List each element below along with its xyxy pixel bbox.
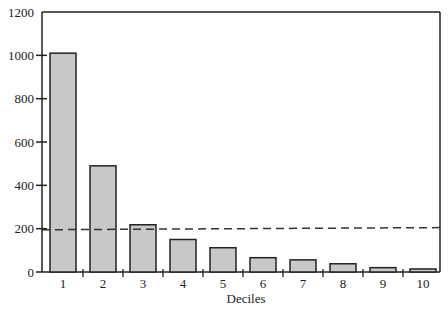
x-tick-label: 9 [380, 276, 387, 291]
y-tick-label: 600 [15, 135, 35, 150]
x-tick-label: 1 [60, 276, 67, 291]
bars [50, 53, 436, 272]
x-tick-label: 3 [140, 276, 147, 291]
bar-decile-5 [210, 248, 236, 272]
x-axis-label: Deciles [227, 291, 266, 306]
x-tick-label: 5 [220, 276, 227, 291]
y-tick-label: 1000 [8, 48, 34, 63]
x-tick-label: 8 [340, 276, 347, 291]
x-tick-label: 2 [100, 276, 107, 291]
y-tick-label: 800 [15, 91, 35, 106]
bar-decile-1 [50, 53, 76, 272]
y-tick-label: 200 [15, 221, 35, 236]
y-axis: 020040060080010001200 [8, 5, 47, 280]
x-tick-label: 4 [180, 276, 187, 291]
y-tick-label: 400 [15, 178, 35, 193]
bar-chart: 020040060080010001200 12345678910 Decile… [0, 0, 448, 314]
bar-decile-4 [170, 240, 196, 273]
bar-decile-3 [130, 225, 156, 272]
bar-decile-8 [330, 264, 356, 272]
x-tick-label: 6 [260, 276, 267, 291]
x-tick-label: 7 [300, 276, 307, 291]
bar-decile-7 [290, 260, 316, 272]
x-tick-label: 10 [417, 276, 430, 291]
bar-decile-10 [410, 269, 436, 272]
bar-decile-6 [250, 258, 276, 272]
bar-decile-2 [90, 166, 116, 272]
bar-decile-9 [370, 268, 396, 272]
y-tick-label: 0 [28, 265, 35, 280]
y-tick-label: 1200 [8, 5, 34, 20]
